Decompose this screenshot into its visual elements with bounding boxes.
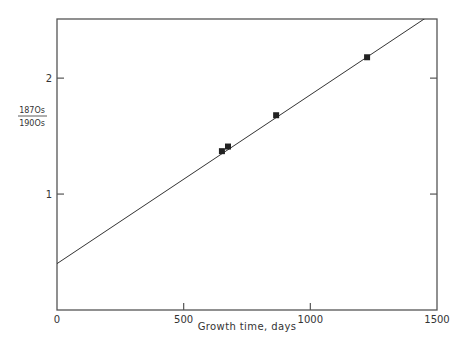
y-axis-ticks: 12: [46, 73, 437, 200]
data-point-marker: [225, 144, 231, 150]
x-tick-label: 1500: [424, 314, 449, 325]
data-markers: [219, 54, 370, 154]
y-tick-label: 1: [46, 189, 52, 200]
y-tick-label: 2: [46, 73, 52, 84]
x-axis-title: Growth time, days: [198, 321, 297, 332]
chart: 050010001500 12 Growth time, days 187Os …: [0, 0, 460, 346]
data-point-marker: [219, 148, 225, 154]
y-axis-title-numerator: 187Os: [19, 106, 45, 115]
y-axis-title-denominator: 190Os: [19, 119, 45, 128]
plot-frame: [57, 19, 437, 310]
x-tick-label: 1000: [298, 314, 323, 325]
y-axis-title: 187Os 190Os: [18, 106, 47, 128]
data-point-marker: [364, 54, 370, 60]
x-tick-label: 0: [54, 314, 60, 325]
data-point-marker: [273, 112, 279, 118]
x-tick-label: 500: [174, 314, 193, 325]
fit-line: [57, 10, 437, 263]
